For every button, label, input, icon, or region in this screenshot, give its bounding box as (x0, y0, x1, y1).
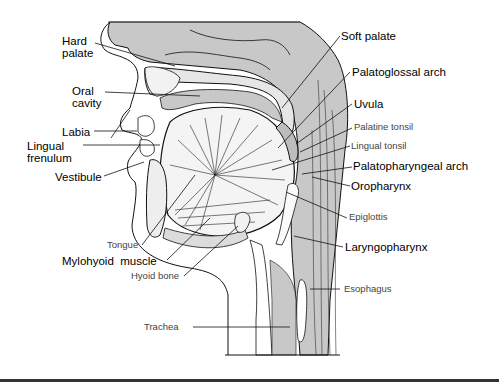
label-hard-palate: Hard palate (62, 35, 93, 59)
cartilage (297, 280, 307, 342)
label-vestibule: Vestibule (55, 171, 102, 183)
label-palatine-tonsil: Palatine tonsil (354, 122, 413, 132)
label-hyoid-bone: Hyoid bone (131, 271, 179, 281)
bottom-rule (0, 379, 499, 382)
label-tongue: Tongue (107, 240, 138, 250)
label-palatopharyngeal-arch: Palatopharyngeal arch (353, 160, 468, 172)
larynx (250, 240, 272, 355)
trachea-wall (270, 260, 296, 355)
label-soft-palate: Soft palate (341, 30, 396, 42)
label-laryngopharynx: Laryngopharynx (345, 241, 427, 253)
label-uvula: Uvula (354, 98, 383, 110)
label-oral-cavity: Oral cavity (72, 85, 101, 109)
tongue (160, 107, 294, 236)
label-esophagus: Esophagus (344, 284, 392, 294)
label-trachea: Trachea (144, 322, 179, 332)
label-epiglottis: Epiglottis (349, 212, 388, 222)
label-lingual-frenulum: Lingual frenulum (27, 140, 72, 164)
label-labia: Labia (62, 126, 90, 138)
label-oropharynx: Oropharynx (351, 180, 411, 192)
label-mylohyoid-muscle: Mylohyoid muscle (62, 255, 157, 267)
label-palatoglossal-arch: Palatoglossal arch (352, 66, 446, 78)
lower-lip (140, 140, 154, 157)
upper-lip (138, 116, 154, 137)
label-lingual-tonsil: Lingual tonsil (351, 141, 406, 151)
